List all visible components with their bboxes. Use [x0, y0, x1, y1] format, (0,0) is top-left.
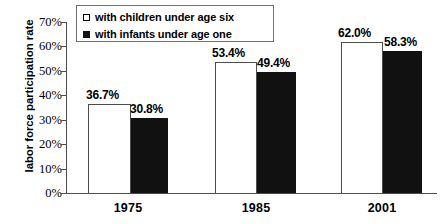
y-axis-tick-label: 70% [18, 16, 62, 28]
y-axis-tick-label: 60% [18, 40, 62, 52]
y-axis-tick-label: 0% [18, 187, 62, 199]
data-label-black-1985: 49.4% [257, 56, 290, 70]
y-axis-tick-label: 50% [18, 65, 62, 77]
legend-item-infants-under-one: with infants under age one [83, 26, 273, 42]
x-axis-category-label-1975: 1975 [83, 201, 173, 215]
bar-white-1975 [88, 104, 131, 194]
y-axis-tick-label: 30% [18, 114, 62, 126]
legend-swatch-white-icon [83, 14, 90, 21]
bar-black-2001 [382, 51, 422, 193]
bar-black-1975 [130, 118, 168, 193]
legend-swatch-black-icon [83, 31, 90, 38]
data-label-black-1975: 30.8% [130, 102, 163, 116]
x-axis-category-label-1985: 1985 [211, 201, 301, 215]
legend-label: with infants under age one [95, 28, 232, 40]
data-label-black-2001: 58.3% [384, 35, 417, 49]
y-axis-line [66, 22, 67, 194]
data-label-white-2001: 62.0% [338, 26, 371, 40]
data-label-white-1985: 53.4% [212, 46, 245, 60]
bar-black-1985 [256, 72, 296, 193]
x-axis-category-label-2001: 2001 [337, 201, 427, 215]
y-axis-tick-label: 20% [18, 138, 62, 150]
bar-chart-figure: labor force participation rate 70% 60% 5… [0, 0, 442, 224]
y-axis-tick-label: 40% [18, 89, 62, 101]
bar-white-1985 [215, 62, 257, 194]
legend-label: with children under age six [95, 11, 234, 23]
y-axis-tick-label: 10% [18, 163, 62, 175]
legend-item-children-under-six: with children under age six [83, 9, 273, 25]
bar-white-2001 [341, 42, 383, 194]
data-label-white-1975: 36.7% [86, 88, 119, 102]
chart-legend: with children under age six with infants… [76, 5, 274, 42]
